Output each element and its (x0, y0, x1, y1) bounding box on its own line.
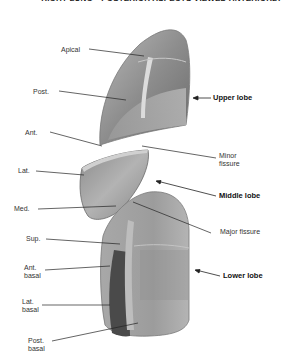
label-lateral-basal-line1: Lat. (22, 298, 39, 306)
label-lateral-basal: Lat. basal (22, 298, 39, 314)
label-minor-fissure-line2: fissure (219, 160, 240, 168)
label-upper-lobe: Upper lobe (213, 94, 252, 102)
label-anterior: Ant. (25, 129, 37, 137)
label-major-fissure: Major fissure (220, 228, 260, 236)
label-anterior-basal-line2: basal (24, 272, 41, 280)
label-posterior-basal: Post. basal (28, 337, 45, 353)
label-anterior-basal-line1: Ant. (24, 264, 41, 272)
label-middle-lobe: Middle lobe (219, 192, 260, 200)
label-posterior-basal-line2: basal (28, 345, 45, 353)
label-minor-fissure-line1: Minor (219, 152, 240, 160)
label-minor-fissure: Minor fissure (219, 152, 240, 168)
label-superior: Sup. (26, 235, 40, 243)
lung-illustration (0, 0, 286, 361)
label-lateral-basal-line2: basal (22, 306, 39, 314)
upper-lobe-shape (100, 30, 190, 145)
label-medial: Med. (14, 205, 30, 213)
label-posterior: Post. (33, 88, 49, 96)
label-apical: Apical (61, 46, 80, 54)
label-posterior-basal-line1: Post. (28, 337, 45, 345)
label-lateral: Lat. (18, 167, 30, 175)
label-lower-lobe: Lower lobe (223, 272, 263, 280)
label-anterior-basal: Ant. basal (24, 264, 41, 280)
